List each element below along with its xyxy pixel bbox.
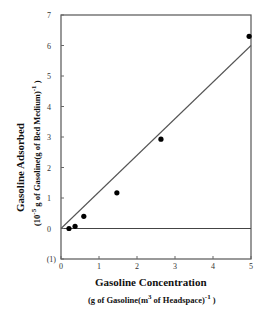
data-series	[61, 34, 252, 231]
x-tick-label: 5	[249, 262, 253, 271]
y-tick-label: 7	[47, 11, 51, 20]
x-tick-label: 0	[59, 262, 63, 271]
y-tick-label: 6	[47, 42, 51, 51]
y-tick-label: 2	[47, 164, 51, 173]
fit-line	[61, 46, 251, 229]
y-tick-label: 0	[47, 225, 51, 234]
x-axis-title: Gasoline Concentration	[95, 276, 207, 288]
y-axis-title: Gasoline Adsorbed	[14, 123, 26, 212]
data-point	[114, 190, 119, 195]
x-axis-ticks: 012345	[59, 256, 253, 271]
data-point	[66, 226, 71, 231]
x-tick-label: 1	[97, 262, 101, 271]
x-axis-units: (g of Gasoline(m3 of Headspace)-1 )	[88, 293, 216, 305]
y-tick-label: 1	[47, 194, 51, 203]
x-tick-label: 2	[135, 262, 139, 271]
data-point	[158, 137, 163, 142]
x-tick-label: 4	[211, 262, 215, 271]
x-tick-label: 3	[173, 262, 177, 271]
y-tick-label: 5	[47, 72, 51, 81]
y-axis-units: (10-5 g of Gasoline(g of Bed Medium)-1 )	[30, 80, 42, 226]
y-tick-label: 3	[47, 133, 51, 142]
data-point	[247, 34, 252, 39]
y-tick-label: 4	[47, 103, 51, 112]
data-point	[72, 224, 77, 229]
data-point	[81, 214, 86, 219]
y-tick-label: (1)	[47, 255, 57, 264]
